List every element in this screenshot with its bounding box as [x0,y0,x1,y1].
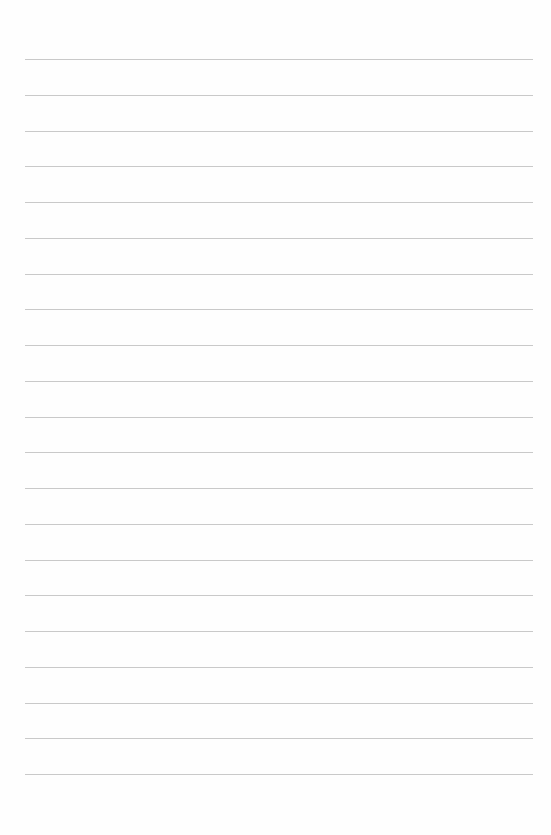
ruled-line [25,202,533,203]
ruled-line [25,488,533,489]
ruled-line [25,59,533,60]
ruled-line [25,274,533,275]
ruled-line [25,131,533,132]
ruled-line [25,560,533,561]
ruled-line [25,703,533,704]
ruled-line [25,774,533,775]
ruled-line [25,667,533,668]
ruled-line [25,95,533,96]
ruled-line [25,524,533,525]
ruled-line [25,381,533,382]
ruled-line [25,345,533,346]
lined-paper-page [0,0,551,835]
ruled-line [25,417,533,418]
ruled-line [25,738,533,739]
ruled-line [25,309,533,310]
ruled-line [25,452,533,453]
ruled-line [25,631,533,632]
ruled-line [25,166,533,167]
ruled-line [25,595,533,596]
ruled-line [25,238,533,239]
